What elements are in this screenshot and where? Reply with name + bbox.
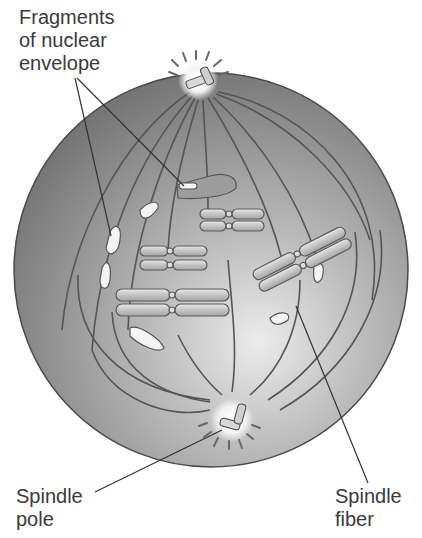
label-spindle-pole: Spindle pole <box>16 485 83 531</box>
mitosis-diagram <box>0 0 422 538</box>
label-fragments-of-nuclear-envelope: Fragments of nuclear envelope <box>19 6 115 75</box>
label-spindle-fiber: Spindle fiber <box>335 485 402 531</box>
